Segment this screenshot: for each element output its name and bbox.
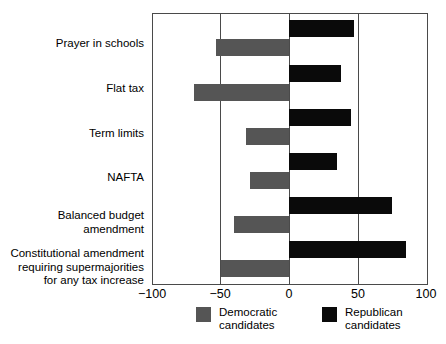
legend-item-republican: Republican candidates <box>322 306 403 332</box>
x-tick-label-plus-100: 100 <box>416 287 437 301</box>
bar-republican-balanced-budget-amendment <box>289 197 392 214</box>
x-tick-label-zero: 0 <box>286 287 293 301</box>
x-tick-label-minus-50: −50 <box>209 287 230 301</box>
bar-democratic-balanced-budget-amendment <box>234 216 289 233</box>
category-label-nafta: NAFTA <box>107 171 144 185</box>
bar-republican-nafta <box>289 153 337 170</box>
bar-democratic-prayer-in-schools <box>216 39 289 56</box>
legend-label-democratic: Democratic candidates <box>219 306 277 332</box>
category-label-constitutional-amendment: Constitutional amendment requiring super… <box>10 247 144 288</box>
bar-republican-constitutional-amendment <box>289 241 406 258</box>
bar-republican-prayer-in-schools <box>289 20 354 37</box>
x-tick-label-plus-50: 50 <box>351 287 365 301</box>
legend-swatch-republican-icon <box>322 307 337 322</box>
legend-item-democratic: Democratic candidates <box>196 306 277 332</box>
x-tick-label-minus-100: −100 <box>138 287 166 301</box>
plot-area <box>152 13 428 285</box>
legend-swatch-democratic-icon <box>196 307 211 322</box>
category-label-term-limits: Term limits <box>89 127 144 141</box>
bar-democratic-nafta <box>250 172 289 189</box>
category-label-balanced-budget-amendment: Balanced budget amendment <box>58 209 144 236</box>
bar-democratic-constitutional-amendment <box>221 260 289 277</box>
legend-label-republican: Republican candidates <box>345 306 403 332</box>
category-label-flat-tax: Flat tax <box>106 82 144 96</box>
category-label-prayer-in-schools: Prayer in schools <box>56 37 144 51</box>
bar-democratic-flat-tax <box>194 84 289 101</box>
bar-republican-flat-tax <box>289 65 341 82</box>
x-axis: −100 −50 0 50 100 <box>152 287 428 305</box>
bar-chart: Prayer in schools Flat tax Term limits N… <box>0 0 446 344</box>
bar-republican-term-limits <box>289 109 351 126</box>
category-axis-labels: Prayer in schools Flat tax Term limits N… <box>0 13 148 285</box>
chart-legend: Democratic candidates Republican candida… <box>0 306 446 342</box>
bar-democratic-term-limits <box>246 128 289 145</box>
